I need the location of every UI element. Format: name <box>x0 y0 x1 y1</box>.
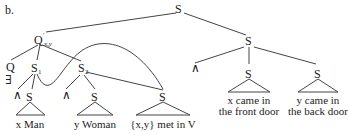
figure-label: b. <box>5 3 14 17</box>
s2-subscript: 2 <box>85 68 89 76</box>
s-met-node: S <box>159 90 166 104</box>
q-prime-superscript: ' <box>43 31 44 39</box>
leaf-met-in-v: {x,y} met in V <box>130 118 195 130</box>
leaf-x-came-line2: the front door <box>219 105 280 117</box>
s2-node: S <box>78 61 85 75</box>
tree-edges <box>11 13 338 115</box>
s1-child-node: S <box>26 90 33 104</box>
q-prime-node: Q <box>34 33 43 47</box>
leaf-x-man: x Man <box>16 118 45 130</box>
syntax-tree-diagram: b. S Q ' x,y Q ∃ S 1 S 2 ∧ <box>0 0 348 135</box>
right-s1-node: S <box>245 67 252 81</box>
leaf-y-came-line2: the back door <box>288 105 348 117</box>
s1-node: S <box>31 61 38 75</box>
root-node: S <box>175 2 182 16</box>
conjunction-symbol: ∧ <box>13 88 22 102</box>
conjunction-symbol: ∧ <box>62 88 71 102</box>
leaf-y-woman: y Woman <box>74 118 116 130</box>
right-s-node: S <box>245 34 252 48</box>
conjunction-symbol: ∧ <box>191 61 200 75</box>
q-prime-subscript: x,y <box>43 40 53 48</box>
exists-quantifier: ∃ <box>5 73 12 87</box>
s2-child-node: S <box>91 90 98 104</box>
q-node: Q <box>6 60 15 74</box>
right-s2-node: S <box>314 67 321 81</box>
s1-subscript: 1 <box>38 68 42 76</box>
